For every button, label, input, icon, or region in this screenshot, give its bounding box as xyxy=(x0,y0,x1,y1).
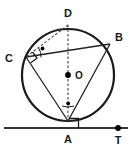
point-label-t: T xyxy=(115,134,122,146)
angle-dot-mark-a xyxy=(66,102,70,106)
point-label-d: D xyxy=(64,7,72,19)
point-marker-o xyxy=(65,72,71,78)
point-marker-t xyxy=(115,125,121,131)
geometry-canvas: A B C D O T xyxy=(0,0,130,151)
point-label-o: O xyxy=(75,70,83,81)
point-label-a: A xyxy=(64,133,72,145)
geometry-figure: A B C D O T xyxy=(0,0,130,151)
angle-dot-mark-c xyxy=(41,47,45,51)
point-label-c: C xyxy=(5,52,13,64)
point-label-b: B xyxy=(115,31,123,43)
